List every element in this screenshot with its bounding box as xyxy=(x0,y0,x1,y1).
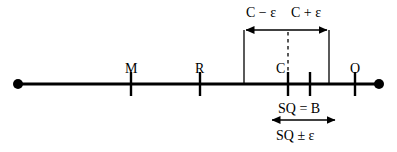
right-endpoint-dot xyxy=(374,79,384,89)
figure-canvas xyxy=(0,0,397,152)
label-point-c: C xyxy=(276,62,285,76)
label-point-o: O xyxy=(350,62,360,76)
number-line-figure: C − ε C + ε M R C O SQ = B SQ ± ε xyxy=(0,0,397,152)
label-c-plus-epsilon: C + ε xyxy=(291,6,321,20)
label-point-m: M xyxy=(125,62,137,76)
label-sq-plus-minus-epsilon: SQ ± ε xyxy=(276,129,314,143)
label-point-r: R xyxy=(195,62,204,76)
left-endpoint-dot xyxy=(13,79,23,89)
label-c-minus-epsilon: C − ε xyxy=(246,6,276,20)
label-sq-equals-b: SQ = B xyxy=(278,102,320,116)
